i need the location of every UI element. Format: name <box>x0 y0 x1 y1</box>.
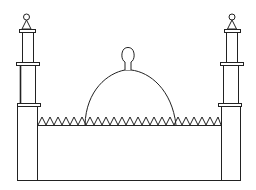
main-wall <box>38 126 222 181</box>
mosque-drawing: Mosque line drawing <box>0 0 256 190</box>
dome-finial <box>122 48 134 71</box>
right-minaret <box>219 14 244 181</box>
left-minaret <box>17 14 41 181</box>
